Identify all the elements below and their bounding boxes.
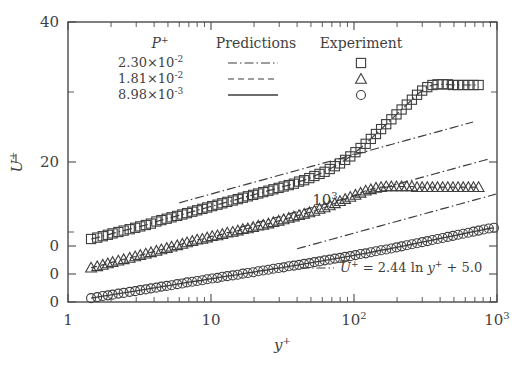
- inline-labels: 103: [312, 190, 337, 209]
- y-tick-label: 0: [49, 237, 59, 255]
- x-tick-labels: 110102103: [63, 310, 510, 329]
- legend-header-pressure: P+: [151, 35, 169, 51]
- data-marker-circle: [357, 91, 366, 100]
- legend-row: 1.81×10-2: [118, 70, 366, 86]
- y-tick-label: 0: [49, 265, 59, 283]
- data-marker-square: [356, 58, 365, 67]
- data-series-triangle: [86, 181, 484, 272]
- legend-header-experiment: Experiment: [320, 35, 403, 51]
- x-tick-label: 10: [201, 311, 220, 329]
- x-axis-title: y+: [273, 335, 291, 354]
- log-law-annotation: U+ = 2.44 ln y+ + 5.0: [300, 259, 482, 275]
- y-tick-label: 40: [40, 13, 59, 31]
- inline-label: 103: [312, 190, 337, 209]
- figure-container: 110102103y+4020000U+103P+PredictionsExpe…: [0, 0, 520, 365]
- legend-value: 1.81×10-2: [118, 70, 183, 86]
- legend-value: 8.98×10-3: [118, 86, 183, 102]
- y-tick-label: 0: [49, 293, 59, 311]
- x-tick-label: 103: [484, 310, 509, 329]
- legend-row: 8.98×10-3: [118, 86, 366, 102]
- legend: P+PredictionsExperiment2.30×10-21.81×10-…: [118, 35, 403, 102]
- y-axis-title: U+: [7, 151, 26, 172]
- velocity-profile-chart: 110102103y+4020000U+103P+PredictionsExpe…: [0, 0, 520, 365]
- legend-header-predictions: Predictions: [216, 35, 296, 51]
- legend-row: 2.30×10-2: [118, 54, 366, 70]
- y-tick-label: 20: [40, 153, 59, 171]
- legend-value: 2.30×10-2: [118, 54, 183, 70]
- reference-lines: [179, 122, 495, 249]
- x-tick-label: 102: [341, 310, 366, 329]
- data-marker-triangle: [356, 74, 367, 84]
- x-tick-label: 1: [63, 311, 73, 329]
- annotation-text: U+ = 2.44 ln y+ + 5.0: [340, 259, 482, 275]
